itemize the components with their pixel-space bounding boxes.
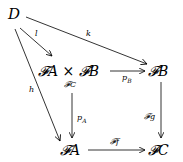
- node-FC: 𝓕C: [148, 143, 169, 157]
- label-pB-sub: B: [127, 77, 131, 84]
- label-pA-sub: A: [82, 117, 86, 124]
- node-product-sub: 𝓕C: [64, 81, 76, 89]
- label-pB: pB: [122, 74, 132, 84]
- node-D: D: [8, 7, 20, 22]
- node-FA: 𝓕A: [60, 143, 80, 157]
- arrow-h: [15, 29, 60, 141]
- node-FB: 𝓕B: [148, 64, 168, 78]
- arrow-k: [26, 17, 147, 64]
- label-k: k: [86, 30, 91, 38]
- label-Ff: 𝓕f: [110, 138, 119, 146]
- label-Fg: 𝓕g: [144, 113, 155, 121]
- node-product: 𝓕A × 𝓕B: [38, 64, 99, 78]
- label-h: h: [29, 86, 34, 94]
- label-pA: pA: [77, 114, 86, 124]
- arrows-layer: [0, 0, 183, 162]
- label-l: l: [35, 30, 38, 38]
